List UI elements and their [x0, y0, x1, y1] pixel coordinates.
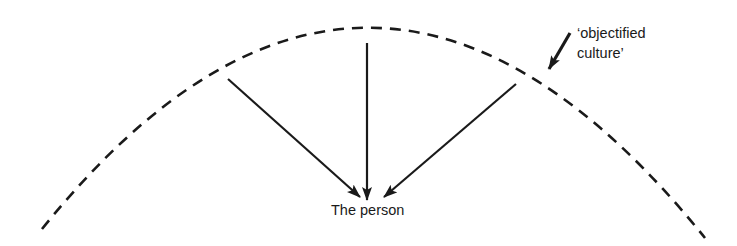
objectified-culture-label: ‘objectified culture’: [577, 23, 646, 63]
label-line-1: ‘objectified: [577, 23, 646, 43]
the-person-label: The person: [331, 200, 404, 220]
label-pointer-arrow: [549, 33, 570, 69]
arrow-left: [228, 79, 360, 197]
label-line-2: culture’: [577, 43, 646, 63]
arrow-right: [384, 84, 516, 197]
